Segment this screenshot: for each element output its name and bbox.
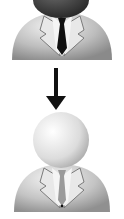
head-shape [33,112,89,168]
user-avatar-light-icon [0,112,124,219]
arrow-down-icon [0,66,124,112]
user-avatar-dark-icon [0,0,124,66]
